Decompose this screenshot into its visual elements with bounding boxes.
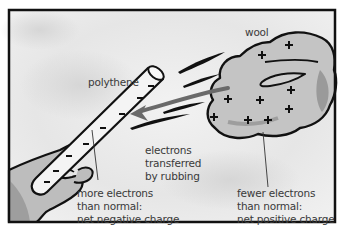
label-polythene: polythene (88, 76, 139, 89)
label-positive-charge: fewer electrons than normal: net positiv… (237, 187, 334, 226)
label-transfer: electrons transferred by rubbing (145, 144, 201, 183)
electrostatic-charging-diagram: polythene wool electrons transferred by … (0, 0, 354, 237)
label-negative-charge: more electrons than normal: net negative… (77, 187, 179, 226)
label-wool: wool (245, 26, 269, 39)
